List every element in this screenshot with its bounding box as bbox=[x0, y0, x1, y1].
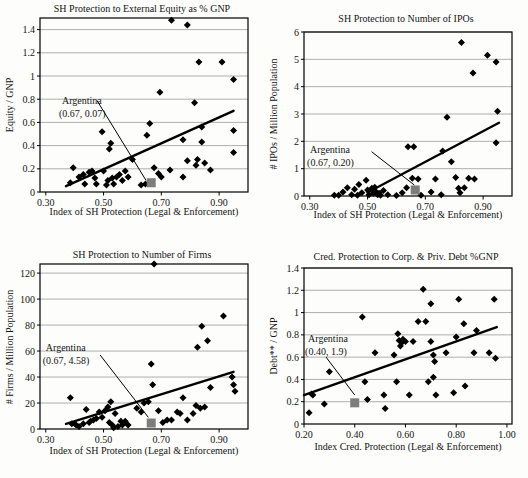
y-tick-label: 3 bbox=[294, 109, 299, 120]
highlight-square-argentina bbox=[350, 398, 359, 407]
y-tick-label: 0 bbox=[30, 187, 35, 198]
y-tick-label: 100 bbox=[20, 294, 35, 305]
y-tick-label: 1.4 bbox=[287, 263, 300, 274]
y-tick-label: 1.4 bbox=[23, 24, 36, 35]
y-tick-label: 0.6 bbox=[23, 117, 36, 128]
x-axis-label: Index of SH Protection (Legal & Enforcem… bbox=[40, 206, 248, 217]
annotation-coords: (0.67, 0.20) bbox=[307, 157, 354, 169]
plot-area: 0204060801001200.300.500.700.90Argentina… bbox=[0, 239, 264, 478]
y-tick-label: 1.2 bbox=[287, 285, 300, 296]
y-tick-label: 80 bbox=[25, 320, 35, 331]
x-tick-label: 0.30 bbox=[37, 434, 55, 445]
chart-equity-gnp: SH Protection to External Equity as % GN… bbox=[0, 0, 264, 239]
x-tick-label: 0.90 bbox=[210, 434, 228, 445]
x-axis-label: Index of SH Protection (Legal & Enforcem… bbox=[40, 445, 248, 456]
highlight-square-argentina bbox=[147, 419, 156, 428]
y-tick-label: 4 bbox=[294, 81, 299, 92]
x-axis-label: Index of SH Protection (Legal & Enforcem… bbox=[304, 209, 512, 220]
scatter-points bbox=[331, 39, 501, 199]
highlight-square-argentina bbox=[147, 178, 156, 187]
x-tick-label: 0.70 bbox=[153, 434, 171, 445]
annotation-country: Argentina bbox=[46, 342, 86, 353]
x-tick-label: 0.50 bbox=[95, 434, 113, 445]
y-tick-label: 0.8 bbox=[287, 329, 300, 340]
annotation-coords: (0.67, 4.58) bbox=[43, 355, 90, 367]
y-tick-label: 0.4 bbox=[287, 374, 300, 385]
y-tick-label: 1 bbox=[30, 71, 35, 82]
y-tick-label: 0.4 bbox=[23, 140, 36, 151]
plot-area: 01234560.300.500.700.90Argentina(0.67, 0… bbox=[264, 0, 528, 239]
y-tick-label: 0.2 bbox=[287, 396, 300, 407]
x-tick-label: 0.80 bbox=[447, 429, 465, 440]
y-tick-label: 40 bbox=[25, 372, 35, 383]
annotation-country: Argentina bbox=[308, 333, 348, 344]
y-tick-label: 0.2 bbox=[23, 163, 36, 174]
y-tick-label: 0.8 bbox=[23, 94, 36, 105]
chart-ipos: SH Protection to Number of IPOs # IPOs /… bbox=[264, 0, 528, 239]
x-tick-label: 0.20 bbox=[295, 429, 313, 440]
figure-grid: SH Protection to External Equity as % GN… bbox=[0, 0, 528, 478]
y-tick-label: 1 bbox=[294, 307, 299, 318]
chart-debt-gnp: Cred. Protection to Corp. & Priv. Debt %… bbox=[264, 239, 528, 478]
y-tick-label: 0 bbox=[294, 419, 299, 430]
annotation-country: Argentina bbox=[62, 95, 102, 106]
y-tick-label: 0 bbox=[294, 191, 299, 202]
y-tick-label: 6 bbox=[294, 27, 299, 38]
x-tick-label: 0.60 bbox=[397, 429, 415, 440]
annotation-country: Argentina bbox=[310, 144, 350, 155]
y-tick-label: 2 bbox=[294, 136, 299, 147]
annotation-coords: (0.40, 1.9) bbox=[305, 346, 347, 358]
y-tick-label: 60 bbox=[25, 346, 35, 357]
y-tick-label: 20 bbox=[25, 398, 35, 409]
y-tick-label: 120 bbox=[20, 268, 35, 279]
y-tick-label: 0 bbox=[30, 424, 35, 435]
y-tick-label: 1 bbox=[294, 163, 299, 174]
trend-line bbox=[66, 372, 234, 424]
x-axis-label: Index Cred. Protection (Legal & Enforcem… bbox=[304, 441, 512, 452]
y-tick-label: 0.6 bbox=[287, 352, 300, 363]
scatter-points bbox=[67, 261, 239, 432]
plot-area: 00.20.40.60.811.21.40.300.500.700.90Arge… bbox=[0, 0, 264, 239]
annotation-coords: (0.67, 0.07) bbox=[59, 108, 106, 120]
annotation-leader-line bbox=[326, 357, 355, 395]
y-tick-label: 5 bbox=[294, 54, 299, 65]
chart-firms: SH Protection to Number of Firms # Firms… bbox=[0, 239, 264, 478]
y-tick-label: 1.2 bbox=[23, 47, 36, 58]
highlight-square-argentina bbox=[411, 185, 420, 194]
trend-line bbox=[368, 123, 499, 193]
x-tick-label: 0.40 bbox=[346, 429, 364, 440]
x-tick-label: 1.00 bbox=[498, 429, 516, 440]
